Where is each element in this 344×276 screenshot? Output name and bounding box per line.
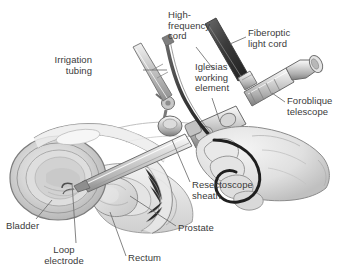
- label-loop-electrode: Loop electrode: [28, 245, 100, 266]
- label-prostate: Prostate: [178, 223, 214, 234]
- leader-fiberoptic-light-cord: [230, 37, 246, 44]
- label-fiberoptic-light-cord: Fiberoptic light cord: [248, 28, 290, 49]
- turp-illustration-figure: High- frequency cord Fiberoptic light co…: [0, 0, 344, 276]
- label-bladder: Bladder: [6, 221, 39, 232]
- leader-foroblique-telescope: [272, 93, 285, 102]
- irrigation-tubing: [133, 43, 172, 101]
- label-irrigation-tubing: Irrigation tubing: [22, 55, 92, 76]
- label-rectum: Rectum: [128, 253, 161, 264]
- irrigation-stopcock: [156, 94, 182, 136]
- label-iglesias-working-element: Iglesias working element: [195, 62, 229, 94]
- label-foroblique-telescope: Foroblique telescope: [287, 96, 332, 117]
- label-high-frequency-cord: High- frequency cord: [168, 10, 210, 42]
- label-resectoscope-sheath: Resectoscope sheath: [192, 180, 253, 201]
